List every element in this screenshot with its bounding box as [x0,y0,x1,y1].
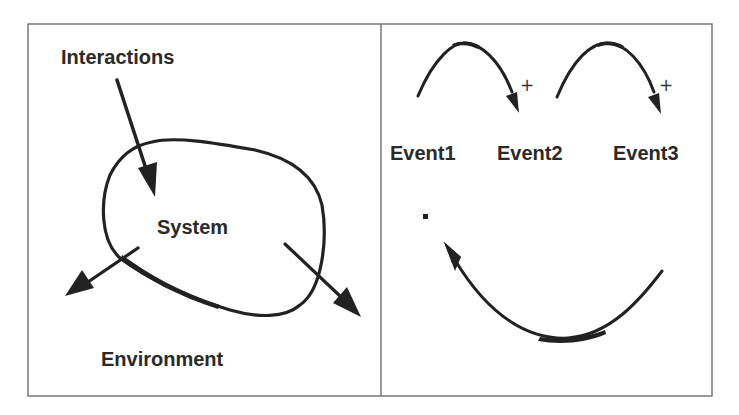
plus-mark-2: + [659,75,673,95]
diagram-frame [28,24,712,396]
event3-label: Event3 [613,142,679,164]
return-arrow-icon [444,242,662,343]
environment-label: Environment [101,348,224,370]
dot-marker [423,214,428,219]
event1-label: Event1 [390,142,456,164]
left-panel: Interactions System Environment [61,46,361,370]
outgoing-arrow-left-icon [65,248,138,296]
event2-label: Event2 [497,142,563,164]
interactions-arrow-icon [117,80,157,197]
transition-arrow-1-icon [418,42,519,113]
system-environment-diagram: Interactions System Environment + [0,0,739,415]
right-panel: + + Event1 Event2 Event3 [390,42,679,343]
plus-mark-1: + [520,75,534,95]
system-label: System [157,216,228,238]
transition-arrow-2-icon [557,42,661,114]
outer-border [28,24,712,396]
interactions-label: Interactions [61,46,174,68]
